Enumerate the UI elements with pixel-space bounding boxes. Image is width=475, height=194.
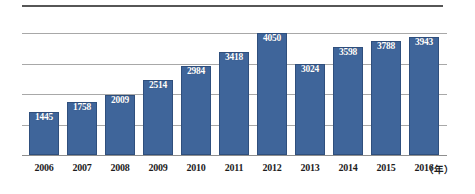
bar-group: 2009 (101, 33, 139, 155)
bar-2007[interactable]: 1758 (67, 102, 97, 155)
bar-group: 3788 (367, 33, 405, 155)
bar-2010[interactable]: 2984 (181, 66, 211, 156)
bar-value-label: 2514 (149, 80, 167, 90)
bar-value-label: 3598 (339, 47, 357, 57)
bar-group: 2514 (139, 33, 177, 155)
bar-value-label: 1758 (73, 102, 91, 112)
top-divider-rule (22, 5, 443, 7)
x-axis-tick-labels: 2006 2007 2008 2009 2010 2011 2012 2013 … (22, 162, 475, 180)
x-tick-label-2007: 2007 (63, 162, 101, 173)
bar-2013[interactable]: 3024 (295, 64, 325, 155)
bar-2016[interactable]: 3943 (409, 37, 439, 156)
bar-2011[interactable]: 3418 (219, 52, 249, 155)
bar-group: 4050 (253, 33, 291, 155)
bar-group: 2984 (177, 33, 215, 155)
x-tick-label-2008: 2008 (101, 162, 139, 173)
x-tick-label-2012: 2012 (253, 162, 291, 173)
x-tick-label-2015: 2015 (367, 162, 405, 173)
bar-chart-figure: 1445 1758 2009 2514 2984 (0, 0, 475, 194)
x-tick-label-2013: 2013 (291, 162, 329, 173)
bar-group: 1445 (25, 33, 63, 155)
bar-value-label: 1445 (35, 112, 53, 122)
bar-value-label: 3788 (377, 41, 395, 51)
bar-group: 3598 (329, 33, 367, 155)
bar-2015[interactable]: 3788 (371, 41, 401, 155)
bar-value-label: 4050 (263, 33, 281, 43)
bar-2006[interactable]: 1445 (29, 112, 59, 156)
x-axis-unit-label: （年） (424, 162, 454, 176)
bar-group: 3024 (291, 33, 329, 155)
bar-2008[interactable]: 2009 (105, 95, 135, 156)
bar-2012[interactable]: 4050 (257, 33, 287, 155)
bar-value-label: 3943 (415, 37, 433, 47)
bar-2009[interactable]: 2514 (143, 80, 173, 156)
bars-layer: 1445 1758 2009 2514 2984 (22, 30, 447, 158)
bar-value-label: 3024 (301, 64, 319, 74)
x-tick-label-2010: 2010 (177, 162, 215, 173)
bar-value-label: 2984 (187, 66, 205, 76)
bar-2014[interactable]: 3598 (333, 47, 363, 156)
bar-value-label: 2009 (111, 95, 129, 105)
bar-group: 3943 (405, 33, 443, 155)
x-tick-label-2009: 2009 (139, 162, 177, 173)
x-tick-label-2006: 2006 (25, 162, 63, 173)
plot-area: 1445 1758 2009 2514 2984 (22, 30, 447, 158)
bar-group: 3418 (215, 33, 253, 155)
x-tick-label-2014: 2014 (329, 162, 367, 173)
bar-value-label: 3418 (225, 52, 243, 62)
x-tick-label-2011: 2011 (215, 162, 253, 173)
bar-group: 1758 (63, 33, 101, 155)
